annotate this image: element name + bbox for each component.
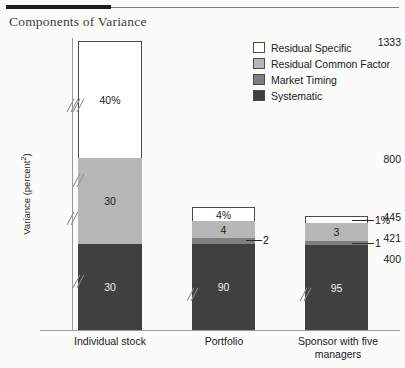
y-axis-line [72,38,73,331]
legend-swatch-market-timing [253,74,265,85]
legend-label-residual-common-factor: Residual Common Factor [271,58,390,70]
legend-swatch-residual-specific [253,42,265,53]
x-axis-line [40,330,400,331]
header-rule-thick [6,5,111,9]
legend: Residual Specific Residual Common Factor… [253,40,390,104]
callout-sponsor-residual-specific: 1% [375,214,390,226]
y-axis-title-text: Variance (percent [21,160,32,234]
segment-residual-common-factor: 30 [78,158,142,244]
x-label-portfolio: Portfolio [178,335,270,348]
legend-item-systematic: Systematic [253,88,390,103]
segment-systematic: 90 [192,244,255,330]
y-axis-title: Variance (percent2) [20,119,32,269]
leader-line-sponsor-market-timing [352,243,374,244]
chart-figure: Components of Variance Variance (percent… [0,0,405,368]
y-axis-title-close: ) [21,153,32,156]
segment-residual-specific: 4% [192,207,255,222]
chart-title: Components of Variance [9,14,147,30]
segment-residual-common-factor: 4 [192,221,255,238]
legend-item-market-timing: Market Timing [253,72,390,87]
legend-item-residual-specific: Residual Specific [253,40,390,55]
segment-systematic: 30 [78,244,142,330]
callout-sponsor-market-timing: 1 [375,237,381,249]
legend-item-residual-common-factor: Residual Common Factor [253,56,390,71]
legend-swatch-residual-common-factor [253,58,265,69]
segment-residual-specific: 40% [78,41,142,159]
legend-label-systematic: Systematic [271,90,322,102]
legend-swatch-systematic [253,90,265,101]
segment-systematic: 95 [305,245,368,330]
x-label-individual-stock: Individual stock [60,335,160,348]
bar-sponsor-with-five-managers: 3 95 [305,216,368,330]
leader-line-portfolio-market-timing [246,240,262,241]
leader-line-sponsor-residual-specific [352,220,374,221]
bar-portfolio: 4% 4 90 [192,207,255,330]
legend-label-residual-specific: Residual Specific [271,42,352,54]
segment-residual-common-factor: 3 [305,223,368,241]
y-axis-title-sup: 2 [20,157,27,161]
legend-label-market-timing: Market Timing [271,74,337,86]
y-tick-800: 800 [339,153,405,165]
x-label-sponsor-line2: managers [288,348,388,361]
callout-portfolio-market-timing: 2 [263,234,269,246]
header-rule-thin [111,7,399,8]
x-label-sponsor-line1: Sponsor with five [288,335,388,348]
x-label-sponsor: Sponsor with five managers [288,335,388,360]
bar-individual-stock: 40% 30 30 [78,41,142,330]
